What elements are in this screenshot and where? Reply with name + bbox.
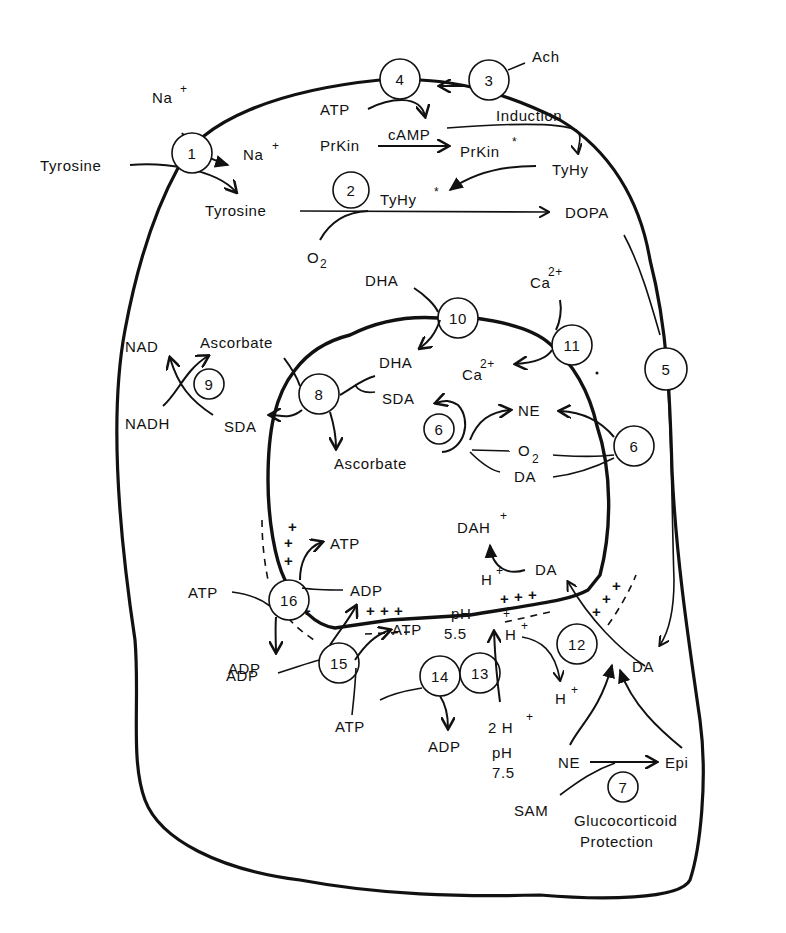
- vesicle-o2-label: O: [518, 442, 530, 459]
- vesicle-adp-label: ADP: [350, 582, 383, 599]
- svg-text:*: *: [434, 185, 439, 199]
- sam-label: SAM: [514, 802, 548, 819]
- svg-text:9: 9: [205, 376, 214, 393]
- svg-text:2: 2: [532, 452, 539, 466]
- na-inside: Na: [243, 146, 263, 163]
- adp-15-label: ADP: [226, 667, 259, 684]
- svg-text:+: +: [366, 602, 375, 619]
- svg-text:+: +: [284, 534, 293, 551]
- vesicle-atp-top-label: ATP: [330, 535, 360, 552]
- svg-text:14: 14: [431, 668, 449, 685]
- prkin-active-label: PrKin: [460, 143, 500, 160]
- svg-text:2+: 2+: [548, 265, 563, 279]
- atp-15-label: ATP: [335, 718, 365, 735]
- vesicle-h2-label: H: [505, 626, 516, 643]
- vesicle-da-label: DA: [514, 468, 536, 485]
- ph-outside-label: pH: [492, 744, 512, 761]
- tyhy-active-label: TyHy: [380, 191, 417, 208]
- tyrosine-inside: Tyrosine: [205, 202, 267, 219]
- tyhy-label: TyHy: [552, 161, 589, 178]
- nad-label: NAD: [125, 338, 158, 355]
- sda-left-label: SDA: [224, 418, 257, 435]
- svg-text:+: +: [602, 590, 611, 607]
- ascorbate-left-label: Ascorbate: [200, 334, 273, 351]
- h-outside-label: H: [555, 690, 566, 707]
- svg-text:+: +: [272, 139, 280, 153]
- svg-text:+: +: [521, 619, 529, 633]
- svg-text:+: +: [380, 602, 389, 619]
- prkin-label: PrKin: [320, 137, 360, 154]
- svg-text:11: 11: [564, 337, 581, 354]
- nadh-label: NADH: [125, 415, 170, 432]
- svg-text:13: 13: [471, 665, 489, 682]
- svg-text:6: 6: [630, 438, 639, 455]
- svg-text:+: +: [180, 82, 188, 96]
- ach-label: Ach: [532, 48, 560, 65]
- vesicle-dha-label: DHA: [379, 354, 412, 371]
- vesicle-ph-value: 5.5: [444, 625, 467, 642]
- svg-text:12: 12: [568, 636, 586, 653]
- o2-label: O: [307, 249, 319, 266]
- na-outside: Na: [152, 89, 172, 106]
- svg-text:2+: 2+: [480, 357, 495, 371]
- svg-text:*: *: [512, 135, 517, 149]
- svg-text:+: +: [288, 518, 297, 535]
- svg-text:10: 10: [449, 310, 467, 327]
- svg-text:+: +: [394, 602, 403, 619]
- svg-text:5: 5: [662, 361, 671, 378]
- vesicle-da-inner-label: DA: [535, 561, 557, 578]
- vesicle-ph-label: pH: [451, 605, 471, 622]
- svg-text:7: 7: [619, 779, 628, 796]
- svg-text:+: +: [571, 683, 579, 697]
- svg-text:+: +: [526, 710, 534, 724]
- vesicle-membrane: [268, 318, 609, 628]
- da-outside-label: DA: [632, 658, 654, 675]
- vesicle-atp-mid-label: ATP: [392, 621, 422, 638]
- svg-text:+: +: [612, 577, 621, 594]
- dah-label: DAH: [457, 519, 490, 536]
- svg-text:16: 16: [280, 592, 298, 609]
- svg-text:2: 2: [320, 257, 327, 271]
- vesicle-free-plus: +: [503, 607, 511, 621]
- protection-label: Protection: [580, 833, 654, 850]
- svg-text:+: +: [528, 586, 537, 603]
- svg-text:2: 2: [347, 182, 356, 199]
- svg-text:+: +: [284, 552, 293, 569]
- camp-label: cAMP: [388, 126, 430, 143]
- vesicle-ascorbate-label: Ascorbate: [334, 455, 407, 472]
- vesicle-h1-label: H: [481, 571, 492, 588]
- ph-outside-value: 7.5: [492, 764, 515, 781]
- ne-outside-label: NE: [558, 754, 580, 771]
- svg-text:+: +: [500, 509, 508, 523]
- svg-text:8: 8: [315, 386, 324, 403]
- dopa-label: DOPA: [565, 204, 609, 221]
- atp-label-top: ATP: [320, 101, 350, 118]
- svg-text:4: 4: [396, 71, 405, 88]
- induction-label: Induction: [496, 107, 562, 124]
- glucocorticoid-label: Glucocorticoid: [574, 812, 677, 829]
- atp-16-label: ATP: [188, 584, 218, 601]
- svg-text:3: 3: [485, 72, 494, 89]
- svg-text:15: 15: [330, 655, 348, 672]
- svg-text:6: 6: [435, 421, 444, 438]
- epi-label: Epi: [665, 754, 688, 771]
- vesicle-ne-label: NE: [518, 402, 540, 419]
- vesicle-sda-label: SDA: [382, 390, 415, 407]
- adp-14-label: ADP: [428, 738, 461, 755]
- catecholamine-pathway-diagram: + + + + + + + + + + + + + + 1 Na + Na + …: [0, 0, 786, 933]
- two-h-label: 2 H: [488, 719, 513, 736]
- svg-text:+: +: [514, 588, 523, 605]
- tyrosine-outside: Tyrosine: [40, 157, 102, 174]
- svg-text:+: +: [500, 590, 509, 607]
- dot-mark: [596, 372, 599, 375]
- dha-top-label: DHA: [365, 272, 398, 289]
- step-1-label: 1: [188, 145, 197, 162]
